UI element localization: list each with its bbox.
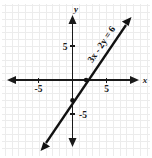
point-y-intercept <box>70 98 75 103</box>
point-x-intercept <box>84 78 89 83</box>
graph-plot-area: -5 5 5 -5 x y 3x - 2y = 6 <box>0 0 152 158</box>
x-axis-tick-label-positive-five: 5 <box>104 84 109 94</box>
x-axis-name-label: x <box>142 75 148 85</box>
y-axis-tick-label-positive-five: 5 <box>63 42 68 52</box>
x-axis-tick-label-negative-five: -5 <box>35 84 43 94</box>
coordinate-graph-figure: -5 5 5 -5 x y 3x - 2y = 6 <box>0 0 152 158</box>
y-axis-tick-label-negative-five: -5 <box>79 110 87 120</box>
